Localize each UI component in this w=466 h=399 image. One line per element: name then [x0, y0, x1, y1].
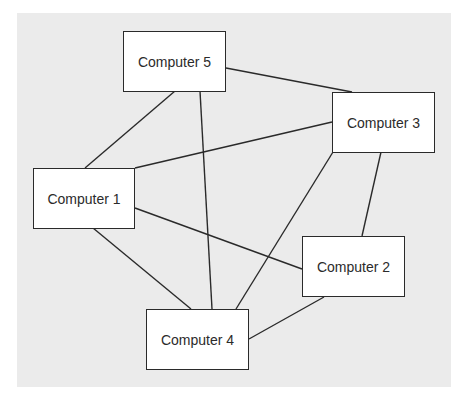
node-label: Computer 2 [317, 259, 390, 275]
node-label: Computer 4 [161, 332, 234, 348]
node-computer-5: Computer 5 [123, 31, 226, 92]
node-label: Computer 3 [347, 115, 420, 131]
node-computer-4: Computer 4 [146, 309, 249, 370]
node-computer-2: Computer 2 [302, 236, 405, 297]
node-computer-3: Computer 3 [332, 92, 435, 153]
node-computer-1: Computer 1 [33, 168, 135, 229]
node-label: Computer 5 [138, 54, 211, 70]
node-label: Computer 1 [47, 191, 120, 207]
